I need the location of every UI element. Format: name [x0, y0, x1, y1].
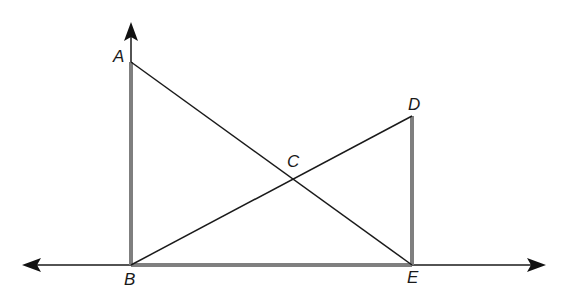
label-C: C: [287, 153, 299, 170]
geometry-diagram: [0, 0, 563, 301]
label-E: E: [407, 269, 418, 286]
label-B: B: [124, 271, 135, 288]
label-A: A: [113, 48, 124, 65]
label-D: D: [408, 96, 420, 113]
segment-AE: [131, 62, 412, 265]
segment-BD: [131, 116, 412, 265]
